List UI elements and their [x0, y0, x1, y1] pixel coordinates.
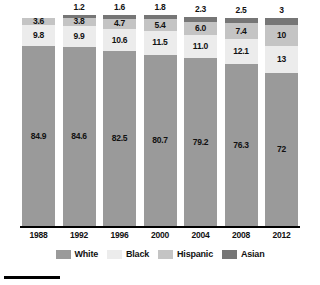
bar-value-label: 5.4 [154, 21, 165, 30]
bar-segment-black: 11.0 [184, 35, 217, 58]
bar-value-label: 6.0 [195, 24, 206, 33]
bar-segment-white: 72 [265, 73, 298, 226]
x-axis-line [20, 226, 300, 228]
bar-segment-hispanic: 10 [265, 25, 298, 46]
bar-segment-white: 84.9 [22, 46, 55, 226]
legend-item-hispanic[interactable]: Hispanic [158, 250, 213, 259]
bar-segment-black: 12.1 [225, 39, 258, 65]
legend-item-black[interactable]: Black [107, 250, 149, 259]
bar-column: 2.57.412.176.3 [225, 14, 258, 226]
bar-value-label: 84.6 [71, 132, 87, 141]
footer-rule [4, 276, 60, 279]
x-tick-2004: 2004 [184, 230, 217, 240]
bar-segment-white: 82.5 [103, 51, 136, 226]
bar-column: 1.64.710.682.5 [103, 14, 136, 226]
bar-column: 1.85.411.580.7 [144, 14, 177, 226]
bar-group: 3.69.884.91.23.89.984.61.64.710.682.51.8… [22, 14, 298, 226]
x-axis-tick-labels: 1988199219962000200420082012 [22, 230, 298, 240]
legend-item-asian[interactable]: Asian [222, 250, 265, 259]
x-tick-2008: 2008 [225, 230, 258, 240]
bar-value-label: 79.2 [193, 138, 209, 147]
bar-value-label: 76.3 [233, 141, 249, 150]
bar-segment-black: 9.8 [22, 25, 55, 46]
bar-column: 1.23.89.984.6 [63, 14, 96, 226]
chart-legend: WhiteBlackHispanicAsian [0, 250, 320, 259]
bar-value-label: 4.7 [114, 19, 125, 28]
bar-value-label: 12.1 [233, 47, 249, 56]
plot-area: 3.69.884.91.23.89.984.61.64.710.682.51.8… [22, 14, 298, 226]
bar-value-label: 11.0 [193, 42, 208, 51]
bar-segment-hispanic: 5.4 [144, 19, 177, 30]
bar-segment-white: 84.6 [63, 47, 96, 226]
bar-segment-hispanic: 3.6 [22, 18, 55, 26]
bar-value-label: 72 [277, 145, 286, 154]
bar-value-label: 82.5 [112, 134, 128, 143]
legend-label: Hispanic [177, 250, 213, 259]
bar-value-label: 3.8 [73, 17, 84, 26]
bar-segment-black: 11.5 [144, 31, 177, 55]
x-tick-2000: 2000 [144, 230, 177, 240]
legend-swatch-asian [222, 250, 237, 259]
bar-segment-white: 79.2 [184, 58, 217, 226]
legend-label: Black [126, 250, 149, 259]
bar-column: 3101372 [265, 14, 298, 226]
bar-value-label: 13 [277, 55, 286, 64]
bar-value-label: 7.4 [235, 27, 246, 36]
x-tick-1996: 1996 [103, 230, 136, 240]
bar-segment-white: 80.7 [144, 55, 177, 226]
bar-value-label: 84.9 [31, 132, 47, 141]
bar-segment-hispanic: 3.8 [63, 18, 96, 26]
legend-swatch-white [56, 250, 71, 259]
bar-value-label: 1.6 [103, 3, 136, 12]
bar-segment-white: 76.3 [225, 64, 258, 226]
legend-swatch-hispanic [158, 250, 173, 259]
x-tick-1988: 1988 [22, 230, 55, 240]
bar-value-label: 2.3 [184, 5, 217, 14]
legend-label: Asian [241, 250, 265, 259]
bar-value-label: 9.9 [73, 32, 84, 41]
x-tick-2012: 2012 [265, 230, 298, 240]
bar-value-label: 10.6 [112, 36, 128, 45]
bar-value-label: 9.8 [33, 31, 44, 40]
legend-item-white[interactable]: White [56, 250, 99, 259]
bar-value-label: 80.7 [152, 136, 168, 145]
bar-segment-black: 9.9 [63, 26, 96, 47]
bar-value-label: 1.2 [63, 3, 96, 12]
bar-value-label: 10 [277, 31, 286, 40]
bar-value-label: 1.8 [144, 3, 177, 12]
bar-value-label: 3 [265, 6, 298, 15]
bar-segment-black: 10.6 [103, 29, 136, 51]
bar-column: 2.36.011.079.2 [184, 14, 217, 226]
bar-segment-black: 13 [265, 46, 298, 74]
x-tick-1992: 1992 [63, 230, 96, 240]
legend-swatch-black [107, 250, 122, 259]
bar-segment-hispanic: 6.0 [184, 22, 217, 35]
stacked-bar-chart: 3.69.884.91.23.89.984.61.64.710.682.51.8… [0, 0, 320, 285]
bar-segment-hispanic: 7.4 [225, 23, 258, 39]
legend-label: White [75, 250, 99, 259]
bar-value-label: 11.5 [152, 38, 167, 47]
bar-column: 3.69.884.9 [22, 14, 55, 226]
bar-segment-hispanic: 4.7 [103, 19, 136, 29]
bar-value-label: 2.5 [225, 6, 258, 15]
